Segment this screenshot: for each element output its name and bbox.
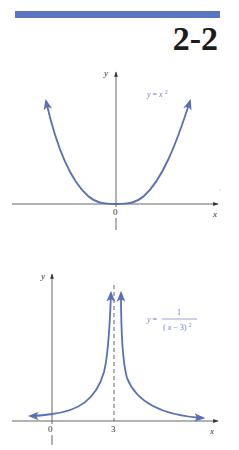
- asymptote-tick-label: 3: [111, 424, 116, 434]
- equation-numerator: 1: [177, 308, 181, 317]
- parabola-curve: [46, 101, 116, 204]
- equation-base: x: [158, 90, 163, 99]
- equation-lhs-label: y =: [146, 315, 158, 324]
- inverse-square-graph: y x 0 3 y = 1 ( x − 3) 2: [0, 240, 239, 450]
- parabola-curve-right: [116, 101, 190, 204]
- denominator-rest: − 3): [173, 323, 187, 332]
- equation-lhs: y: [146, 315, 151, 324]
- equation-equals: =: [153, 315, 158, 324]
- x-axis-label: x: [212, 209, 217, 219]
- origin-label: 0: [48, 424, 53, 434]
- left-branch-curve: [52, 293, 111, 414]
- left-tail-curve: [30, 414, 52, 416]
- y-axis-label: y: [40, 271, 45, 281]
- y-axis-label: y: [103, 68, 108, 78]
- speck: [219, 189, 220, 190]
- equation-lhs: y: [146, 90, 151, 99]
- x-axis-label: x: [209, 426, 214, 436]
- equation-denominator: ( x − 3) 2: [163, 322, 191, 332]
- denominator-var: x: [167, 323, 172, 332]
- equation-label: y = x 2: [146, 89, 168, 99]
- equation-exponent: 2: [165, 89, 168, 95]
- parabola-graph: y x 0 y = x 2: [0, 0, 239, 240]
- origin-label: 0: [113, 207, 118, 217]
- denominator-exponent: 2: [188, 322, 191, 328]
- right-branch-curve: [121, 293, 203, 418]
- denominator-open: (: [163, 323, 166, 332]
